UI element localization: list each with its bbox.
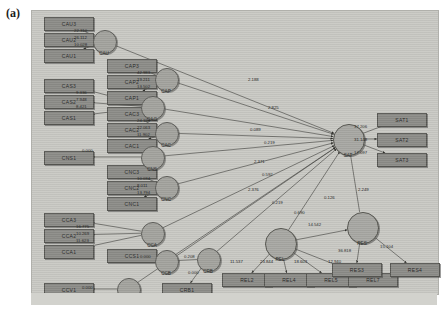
path-coefficient-c-cac1: 11.902 [137, 132, 150, 137]
observed-variable-cns1: CNS1 [44, 151, 94, 165]
path-coefficient-c-cca2: 10.269 [76, 231, 89, 236]
latent-variable-rel [265, 228, 297, 260]
path-coefficient-c-ccs1: 0.000 [140, 254, 151, 259]
path-coefficient-c-cnc2: 8.011 [137, 183, 147, 188]
latent-label-cnc: CNC [150, 197, 182, 202]
observed-variable-cca1: CCA1 [44, 245, 94, 259]
path-arrow [163, 140, 333, 156]
path-coefficient-c-cnc1: 13.794 [137, 190, 150, 195]
path-coefficient-c-sat2: 31.148 [354, 137, 367, 142]
path-coefficient-c-res2: 15.104 [380, 244, 393, 249]
observed-variable-cas1: CAS1 [44, 111, 94, 125]
path-coefficient-c-cnc3: 10.034 [137, 176, 150, 181]
path-coefficient-c-p9: 0.690 [294, 210, 305, 215]
panel-label: (a) [6, 6, 20, 21]
path-arrow [92, 233, 141, 234]
path-coefficient-c-p5: 2.371 [254, 159, 265, 164]
figure-panel: (a) CAU3CAU2CAU1CAP3CAP2CAP1CAS3CAS2CAS1… [0, 0, 444, 314]
path-coefficient-c-cap1: 13.502 [137, 84, 150, 89]
path-arrow [92, 223, 141, 231]
latent-label-ccb: CCB [150, 271, 182, 276]
path-coefficient-c-cap2: 19.211 [137, 77, 150, 82]
path-arrow [350, 154, 359, 212]
path-coefficient-c-p11: 2.249 [358, 187, 369, 192]
path-coefficient-c-crb1: 0.000 [188, 270, 199, 275]
latent-variable-res [347, 212, 379, 244]
path-coefficient-c-cau2: 26.112 [74, 35, 87, 40]
path-arrow [288, 152, 340, 231]
path-coefficient-c-sat3: 17.097 [354, 150, 367, 155]
path-coefficient-c-cas2: 7.948 [76, 97, 87, 102]
latent-label-cau: CAU [88, 51, 120, 56]
path-coefficient-c-p1: 2.188 [248, 77, 259, 82]
path-coefficient-c-p10: 0.126 [324, 195, 335, 200]
observed-variable-cau1: CAU1 [44, 49, 94, 63]
path-coefficient-c-res: 14.542 [308, 222, 321, 227]
observed-variable-sat2: SAT2 [377, 133, 427, 147]
path-coefficient-c-p2: 2.825 [268, 105, 279, 110]
latent-label-res: RES [346, 241, 378, 246]
observed-variable-sat1: SAT1 [377, 113, 427, 127]
path-coefficient-c-sat1: 37.206 [354, 124, 367, 129]
path-coefficient-c-cca1: 11.623 [76, 238, 89, 243]
path-coefficient-c-p4: 0.219 [264, 140, 275, 145]
path-coefficient-c-ccv1: 0.000 [82, 285, 93, 290]
path-coefficient-c-p7: 2.376 [248, 187, 259, 192]
latent-label-cap: CAP [150, 89, 182, 94]
latent-label-cca: CCA [136, 243, 168, 248]
path-coefficient-c-ccb: 0.208 [184, 254, 195, 259]
path-arrow [374, 236, 407, 263]
path-coefficient-c-rel3: 18.603 [294, 259, 307, 264]
path-coefficient-c-cau1: 10.028 [74, 42, 87, 47]
observed-variable-res3: RES3 [332, 263, 382, 277]
path-coefficient-c-cau3: 22.310 [74, 28, 87, 33]
path-coefficient-c-cns1: 0.000 [82, 148, 93, 153]
path-arrow [92, 235, 141, 246]
path-coefficient-c-p6: 0.592 [262, 172, 273, 177]
path-coefficient-c-cac3: 24.154 [137, 118, 150, 123]
path-arrow [177, 133, 333, 138]
observed-variable-sat3: SAT3 [377, 153, 427, 167]
path-coefficient-c-rel4: 12.940 [328, 259, 341, 264]
path-coefficient-c-rel2: 23.844 [260, 259, 273, 264]
path-coefficient-c-cap3: 42.983 [137, 70, 150, 75]
path-diagram-canvas: CAU3CAU2CAU1CAP3CAP2CAP1CAS3CAS2CAS1CAC3… [31, 10, 439, 295]
path-coefficient-c-rel1: 11.537 [230, 259, 243, 264]
path-coefficient-c-p8: 0.219 [272, 200, 283, 205]
path-coefficient-c-cas1: 8.421 [76, 104, 87, 109]
path-arrow [177, 260, 197, 261]
observed-variable-res4: RES4 [390, 263, 440, 277]
path-coefficient-c-cac2: 22.063 [137, 125, 150, 130]
path-coefficient-c-res1: 36.818 [338, 248, 351, 253]
path-coefficient-c-cca3: 16.775 [76, 224, 89, 229]
path-coefficient-c-cas3: 9.336 [76, 90, 87, 95]
figure-footer-strip [31, 293, 437, 305]
latent-label-cns: CNS [136, 167, 168, 172]
path-arrow [295, 230, 348, 240]
path-coefficient-c-p3: 0.089 [250, 127, 261, 132]
